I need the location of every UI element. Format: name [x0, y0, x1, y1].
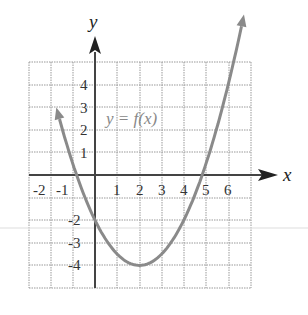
function-label: y = f(x)	[104, 109, 157, 128]
svg-text:-2: -2	[68, 212, 81, 228]
svg-text:4: 4	[80, 77, 88, 93]
svg-text:3: 3	[80, 100, 88, 116]
svg-text:2: 2	[136, 182, 144, 198]
svg-text:4: 4	[180, 182, 188, 198]
svg-text:-2: -2	[33, 182, 46, 198]
svg-text:5: 5	[202, 182, 210, 198]
x-axis-label: x	[282, 164, 292, 185]
x-tick-labels: -2 -1 1 2 3 4 5 6	[33, 182, 232, 198]
svg-text:1: 1	[80, 145, 88, 161]
svg-text:-1: -1	[56, 182, 69, 198]
left-arrow-icon	[55, 107, 65, 120]
svg-text:-3: -3	[68, 235, 81, 251]
graph: x y -2 -1 1 2 3 4 5 6 4 3 2 1 -2 -3 -4 y…	[0, 0, 308, 315]
svg-text:1: 1	[113, 182, 121, 198]
y-axis: y	[87, 11, 101, 288]
svg-text:-4: -4	[68, 257, 81, 273]
svg-text:6: 6	[224, 182, 232, 198]
right-arrow-icon	[237, 15, 247, 28]
svg-text:2: 2	[80, 122, 88, 138]
y-axis-label: y	[87, 11, 98, 32]
svg-text:3: 3	[158, 182, 166, 198]
